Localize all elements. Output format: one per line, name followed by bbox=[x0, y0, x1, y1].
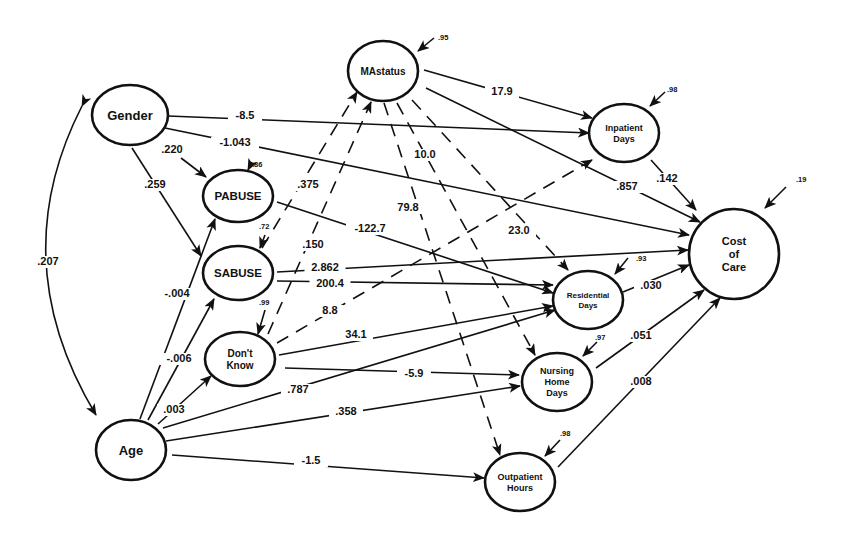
error-label-mastatus: .95 bbox=[438, 33, 448, 42]
edge-label-mastatus-to-cost: .857 bbox=[616, 180, 637, 192]
node-label: Don't bbox=[227, 348, 253, 359]
edge-mastatus-to-cost bbox=[426, 88, 700, 222]
edge-label-age-to-sabuse: -.006 bbox=[166, 352, 191, 364]
edge-label-residential-to-cost: .030 bbox=[640, 279, 661, 291]
error-arrow-mastatus bbox=[418, 38, 434, 51]
error-label-cost: .19 bbox=[796, 175, 806, 184]
node-label: Outpatient bbox=[498, 472, 543, 482]
error-label-outpatient: .98 bbox=[560, 429, 570, 438]
node-dontknow: Don'tKnow bbox=[205, 332, 275, 386]
edge-label-dontknow-to-mastatus: .150 bbox=[302, 238, 323, 250]
error-label-residential: .93 bbox=[636, 254, 646, 263]
error-arrow-cost bbox=[765, 187, 786, 208]
edge-label-mastatus-to-outpatient: 79.8 bbox=[397, 201, 418, 213]
edge-label-gender-to-age: .207 bbox=[37, 255, 58, 267]
edge-label-gender-to-pabuse: .220 bbox=[161, 143, 182, 155]
edge-label-age-to-residential: .787 bbox=[287, 383, 308, 395]
error-label-sabuse: .72 bbox=[259, 222, 269, 231]
edge-label-gender-to-inpatient: -8.5 bbox=[236, 109, 255, 121]
node-label: Care bbox=[722, 261, 746, 273]
node-label: Hours bbox=[507, 483, 533, 493]
node-label: PABUSE bbox=[214, 190, 261, 202]
node-label: Cost bbox=[722, 235, 747, 247]
node-gender: Gender bbox=[92, 85, 168, 145]
edge-label-age-to-outpatient: -1.5 bbox=[302, 454, 321, 466]
node-label: Know bbox=[226, 360, 253, 371]
edge-label-age-to-dontknow: .003 bbox=[163, 403, 184, 415]
error-arrow-inpatient bbox=[650, 92, 665, 106]
edge-label-outpatient-to-cost: .008 bbox=[630, 375, 651, 387]
node-label: SABUSE bbox=[214, 267, 262, 279]
edge-label-mastatus-to-nursing: 10.0 bbox=[414, 148, 435, 160]
edge-mastatus-to-residential bbox=[412, 100, 568, 270]
error-arrow-dontknow bbox=[258, 310, 265, 334]
edge-gender-to-pabuse bbox=[181, 158, 206, 177]
edge-label-sabuse-to-residential: 200.4 bbox=[316, 277, 344, 289]
edge-label-sabuse-to-mastatus: .375 bbox=[297, 178, 318, 190]
node-pabuse: PABUSE bbox=[203, 170, 273, 222]
edge-label-gender-to-cost: -1.043 bbox=[219, 136, 250, 148]
edge-label-nursing-to-cost: .051 bbox=[630, 329, 651, 341]
edge-label-age-to-pabuse: -.004 bbox=[164, 287, 190, 299]
error-arrow-outpatient bbox=[545, 440, 560, 456]
edge-label-pabuse-to-residential: -122.7 bbox=[354, 222, 385, 234]
node-label: Inpatient bbox=[605, 123, 643, 133]
node-label: Residential bbox=[567, 291, 610, 300]
node-nursing: NursingHomeDays bbox=[522, 353, 592, 411]
edge-label-dontknow-to-inpatient: 8.8 bbox=[322, 304, 337, 316]
error-label-nursing: .97 bbox=[595, 333, 605, 342]
node-label: Days bbox=[613, 134, 635, 144]
node-cost: CostofCare bbox=[689, 209, 779, 299]
node-label: of bbox=[729, 248, 740, 260]
edge-label-age-to-nursing: .358 bbox=[335, 405, 356, 417]
node-label: Gender bbox=[107, 108, 153, 123]
node-outpatient: OutpatientHours bbox=[485, 453, 555, 511]
nodes-layer: GenderAgePABUSESABUSEDon'tKnowMAstatusIn… bbox=[92, 41, 779, 511]
node-label: Nursing bbox=[540, 366, 574, 376]
edge-label-gender-to-sabuse: .259 bbox=[144, 178, 165, 190]
node-sabuse: SABUSE bbox=[203, 246, 273, 300]
path-diagram: .95.98.19.86.72.99.93.97.98 GenderAgePAB… bbox=[0, 0, 843, 538]
error-label-pabuse: .86 bbox=[252, 160, 262, 169]
edge-label-mastatus-to-residential: 23.0 bbox=[508, 224, 529, 236]
edge-sabuse-to-mastatus bbox=[262, 92, 357, 248]
node-label: Age bbox=[119, 443, 144, 458]
edge-age-to-dontknow bbox=[158, 376, 211, 424]
node-label: MAstatus bbox=[360, 66, 405, 77]
error-arrow-residential bbox=[615, 258, 628, 274]
edge-gender-to-sabuse bbox=[132, 148, 201, 256]
edge-dontknow-to-mastatus bbox=[268, 102, 371, 334]
edge-label-dontknow-to-nursing: -5.9 bbox=[405, 367, 424, 379]
node-label: Days bbox=[546, 388, 568, 398]
edge-label-sabuse-to-cost: 2.862 bbox=[311, 261, 339, 273]
node-residential: ResidentialDays bbox=[553, 271, 623, 329]
node-label: Days bbox=[578, 301, 598, 310]
node-label: Home bbox=[544, 377, 569, 387]
error-label-dontknow: .99 bbox=[259, 298, 269, 307]
edge-label-inpatient-to-cost: .142 bbox=[656, 172, 677, 184]
node-age: Age bbox=[96, 420, 166, 480]
error-arrow-nursing bbox=[583, 342, 597, 356]
edge-label-dontknow-to-residential: 34.1 bbox=[345, 328, 366, 340]
node-inpatient: InpatientDays bbox=[589, 104, 659, 162]
node-mastatus: MAstatus bbox=[348, 41, 418, 101]
error-label-inpatient: .98 bbox=[667, 85, 677, 94]
edge-label-mastatus-to-inpatient: 17.9 bbox=[491, 85, 512, 97]
